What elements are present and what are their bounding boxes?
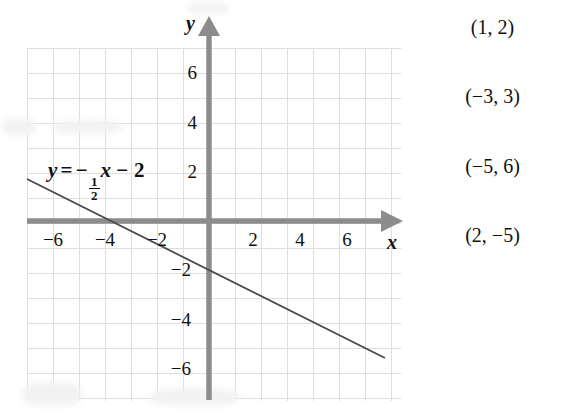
x-tick-4: 4 <box>283 229 317 251</box>
x-axis-arrowhead <box>381 210 403 232</box>
equation-lhs: y <box>48 158 58 182</box>
y-tick-6: 6 <box>167 62 197 84</box>
equation-variable: x <box>101 158 112 182</box>
x-tick-minus4: −4 <box>88 229 122 251</box>
x-tick-6: 6 <box>330 229 364 251</box>
figure-root: y x −6 −4 −2 2 4 6 6 4 2 −2 −4 −6 y=−12x… <box>0 0 565 416</box>
answer-choice-list: (1, 2) (−3, 3) (−5, 6) (2, −5) <box>420 0 565 416</box>
y-tick-4: 4 <box>167 112 197 134</box>
plotted-line <box>27 179 385 358</box>
x-tick-2: 2 <box>236 229 270 251</box>
coordinate-graph: y x −6 −4 −2 2 4 6 6 4 2 −2 −4 −6 y=−12x… <box>0 0 415 416</box>
equation-fraction: 12 <box>89 175 100 202</box>
equation-equals: = <box>61 158 73 182</box>
fraction-numerator: 1 <box>89 175 100 188</box>
y-axis-label: y <box>186 12 195 35</box>
y-tick-2: 2 <box>167 161 197 183</box>
answer-choice-1[interactable]: (1, 2) <box>420 16 565 39</box>
equation-constant: − 2 <box>116 158 144 182</box>
equation-annotation: y=−12x− 2 <box>48 158 145 202</box>
y-tick-minus2: −2 <box>161 259 191 281</box>
axes-and-plot <box>0 0 415 416</box>
answer-choice-2[interactable]: (−3, 3) <box>420 85 565 108</box>
x-tick-minus6: −6 <box>36 229 70 251</box>
answer-choice-3[interactable]: (−5, 6) <box>420 155 565 178</box>
y-tick-minus4: −4 <box>161 309 191 331</box>
fraction-denominator: 2 <box>89 188 100 202</box>
equation-sign: − <box>76 158 88 182</box>
y-axis-arrowhead <box>198 16 220 36</box>
x-tick-minus2: −2 <box>140 229 174 251</box>
x-axis-label: x <box>387 231 397 254</box>
y-tick-minus6: −6 <box>161 358 191 380</box>
answer-choice-4[interactable]: (2, −5) <box>420 224 565 247</box>
